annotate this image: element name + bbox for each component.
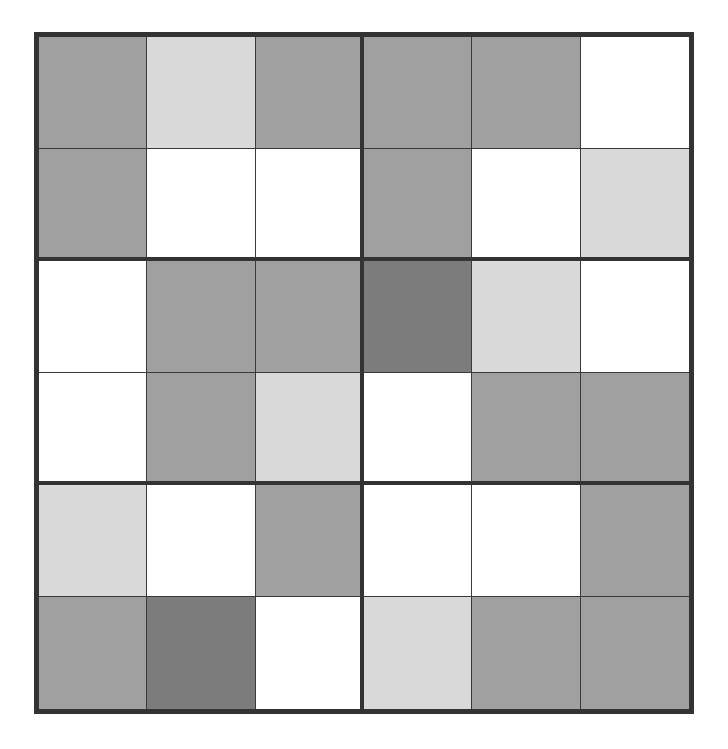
grid-cell[interactable] [364, 37, 472, 149]
grid-cell[interactable] [364, 485, 472, 597]
grid-cell[interactable] [581, 37, 689, 149]
grid-cell[interactable] [472, 597, 580, 709]
grid-cell[interactable] [472, 261, 580, 373]
grid-cell[interactable] [39, 37, 147, 149]
grid-cell[interactable] [472, 149, 580, 261]
grid-cell[interactable] [147, 261, 255, 373]
grid-cell[interactable] [581, 485, 689, 597]
grid-cell[interactable] [39, 485, 147, 597]
grid-cell[interactable] [581, 149, 689, 261]
puzzle-board [34, 32, 694, 714]
grid-cell[interactable] [147, 37, 255, 149]
grid-cell[interactable] [581, 597, 689, 709]
grid-cell[interactable] [256, 597, 364, 709]
grid-cell[interactable] [581, 373, 689, 485]
grid-cell[interactable] [472, 373, 580, 485]
grid-cell[interactable] [472, 37, 580, 149]
grid-cell[interactable] [147, 485, 255, 597]
grid-cell[interactable] [581, 261, 689, 373]
grid-cell[interactable] [147, 597, 255, 709]
grid-cell[interactable] [256, 485, 364, 597]
grid-cell[interactable] [364, 149, 472, 261]
grid-cell[interactable] [472, 485, 580, 597]
grid-cell[interactable] [256, 149, 364, 261]
grid-cell[interactable] [256, 261, 364, 373]
grid-cell[interactable] [39, 149, 147, 261]
grid-cell[interactable] [39, 597, 147, 709]
grid-cell[interactable] [147, 149, 255, 261]
grid-cell[interactable] [364, 597, 472, 709]
grid-cell[interactable] [256, 37, 364, 149]
grid-cell[interactable] [39, 261, 147, 373]
grid-cell[interactable] [256, 373, 364, 485]
grid-cell[interactable] [147, 373, 255, 485]
grid-cell[interactable] [364, 373, 472, 485]
grid-cell[interactable] [364, 261, 472, 373]
grid-cell[interactable] [39, 373, 147, 485]
